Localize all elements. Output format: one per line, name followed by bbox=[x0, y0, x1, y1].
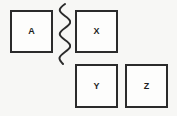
box-x[interactable]: X bbox=[75, 10, 118, 53]
box-z-label: Z bbox=[144, 82, 150, 91]
wavy-break-line-icon bbox=[55, 2, 71, 66]
box-x-label: X bbox=[93, 27, 99, 36]
diagram-canvas: A X Y Z bbox=[0, 0, 177, 116]
box-y-label: Y bbox=[93, 82, 99, 91]
box-y[interactable]: Y bbox=[75, 64, 118, 108]
box-a[interactable]: A bbox=[10, 10, 53, 53]
box-z[interactable]: Z bbox=[125, 64, 168, 108]
box-a-label: A bbox=[28, 27, 35, 36]
